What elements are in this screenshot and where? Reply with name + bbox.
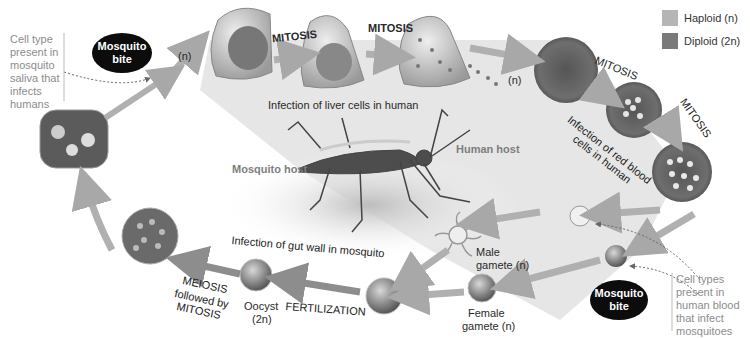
legend: Haploid (n) Diploid (2n) [662,8,740,54]
mosquito-bite-badge-top: Mosquito bite [92,33,152,73]
diploid-swatch [662,33,678,49]
female-gamete-cell [468,274,496,302]
red-blood-cell-3 [652,142,712,202]
female-gamete-label-1: Female [468,307,505,320]
liver-infection-label: Infection of liver cells in human [268,99,418,112]
red-blood-cell-1 [534,37,598,103]
haploid-label-top: (n) [178,50,191,63]
salivary-gland-cell [40,110,108,168]
blood-cell-note: Cell types present in human blood that i… [676,273,740,338]
zygote-cell [366,278,402,314]
female-gametocyte-cell [605,245,627,267]
mosquito-host-label: Mosquito host [232,163,307,176]
malaria-life-cycle-diagram: Haploid (n) Diploid (2n) Cell type prese… [0,0,750,338]
oocyst-cluster [122,208,178,264]
mitosis-label-2: MITOSIS [368,22,413,35]
saliva-cell-note: Cell type present in mosquito saliva tha… [10,33,60,111]
oocyst-label-2: (2n) [252,313,272,326]
legend-item-haploid: Haploid (n) [662,8,740,28]
human-host-label: Human host [456,143,520,156]
haploid-label-liver: (n) [508,74,521,87]
legend-item-diploid: Diploid (2n) [662,31,740,51]
haploid-swatch [662,10,678,26]
oocyst-label-1: Oocyst [244,300,278,313]
male-gamete-label-1: Male [476,246,500,259]
female-gamete-label-2: gamete (n) [462,320,515,333]
male-gametocyte-cell [570,206,590,226]
mosquito-bite-badge-bottom: Mosquito bite [590,280,648,320]
male-gamete-label-2: gamete (n) [476,259,529,272]
oocyst-cell [240,259,272,291]
